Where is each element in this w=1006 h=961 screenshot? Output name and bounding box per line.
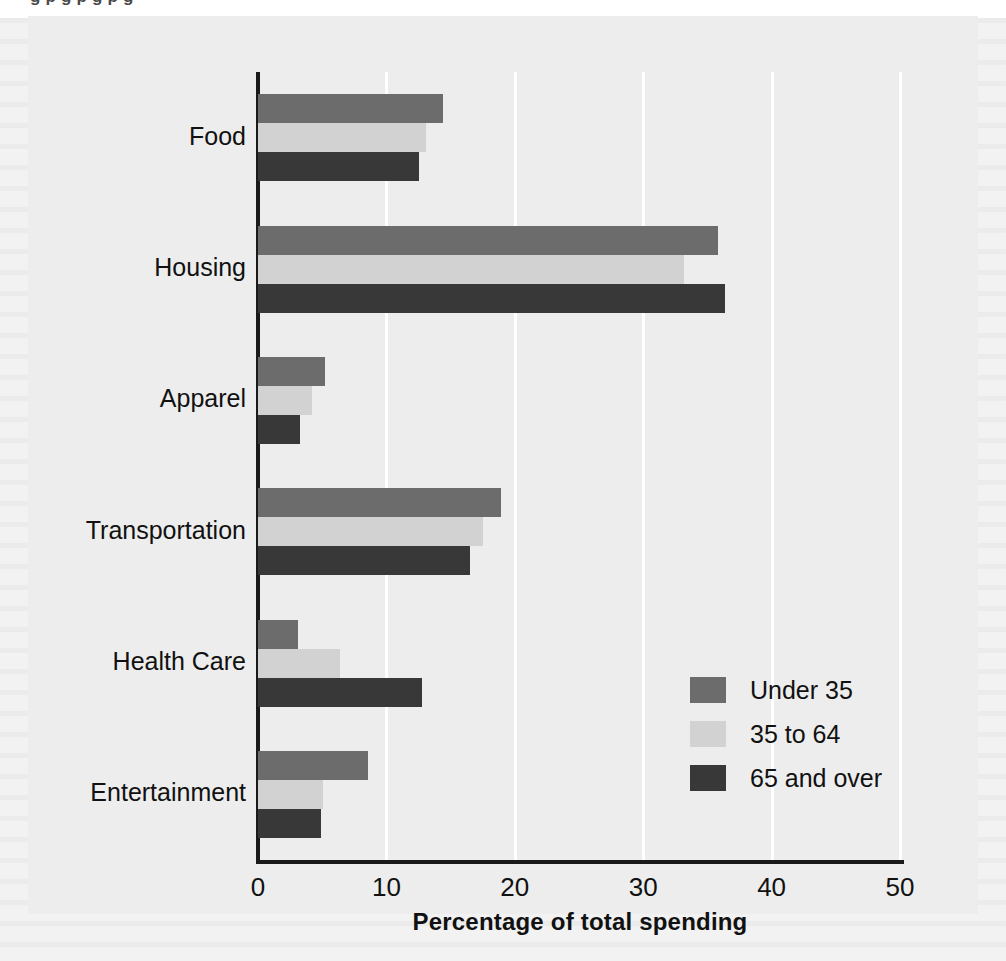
bar (258, 678, 422, 707)
bar (258, 94, 443, 123)
bar (258, 488, 501, 517)
bar (258, 386, 312, 415)
bar (258, 546, 470, 575)
bar (258, 620, 298, 649)
category-label-transportation: Transportation (16, 516, 246, 545)
bar (258, 649, 340, 678)
x-tick-label-0: 0 (223, 872, 293, 903)
x-axis-title: Percentage of total spending (256, 908, 904, 936)
legend-swatch-icon (690, 677, 726, 703)
bar (258, 357, 325, 386)
legend-item: 35 to 64 (690, 712, 882, 756)
bar (258, 751, 368, 780)
category-label-housing: Housing (16, 253, 246, 282)
bar (258, 809, 321, 838)
x-axis-line (256, 860, 904, 864)
legend-label: Under 35 (750, 676, 853, 705)
gridline-20 (514, 72, 517, 862)
bar (258, 226, 718, 255)
bar (258, 123, 426, 152)
legend-item: Under 35 (690, 668, 882, 712)
legend-label: 65 and over (750, 764, 882, 793)
bar (258, 415, 300, 444)
legend-label: 35 to 64 (750, 720, 840, 749)
legend-swatch-icon (690, 765, 726, 791)
category-label-apparel: Apparel (16, 384, 246, 413)
category-label-entertainment: Entertainment (16, 778, 246, 807)
bar (258, 517, 483, 546)
gridline-10 (385, 72, 388, 862)
x-tick-label-10: 10 (351, 872, 421, 903)
bar (258, 152, 419, 181)
gridline-50 (899, 72, 902, 862)
gridline-30 (642, 72, 645, 862)
category-label-health-care: Health Care (16, 647, 246, 676)
bar (258, 284, 725, 313)
x-tick-label-30: 30 (608, 872, 678, 903)
x-tick-label-50: 50 (865, 872, 935, 903)
legend-swatch-icon (690, 721, 726, 747)
x-tick-label-40: 40 (737, 872, 807, 903)
bar-chart: FoodHousingApparelTransportationHealth C… (0, 0, 1006, 961)
x-tick-label-20: 20 (480, 872, 550, 903)
y-axis-line (256, 72, 260, 863)
chart-legend: Under 3535 to 6465 and over (690, 668, 882, 800)
legend-item: 65 and over (690, 756, 882, 800)
bar (258, 780, 323, 809)
category-label-food: Food (16, 122, 246, 151)
bar (258, 255, 684, 284)
